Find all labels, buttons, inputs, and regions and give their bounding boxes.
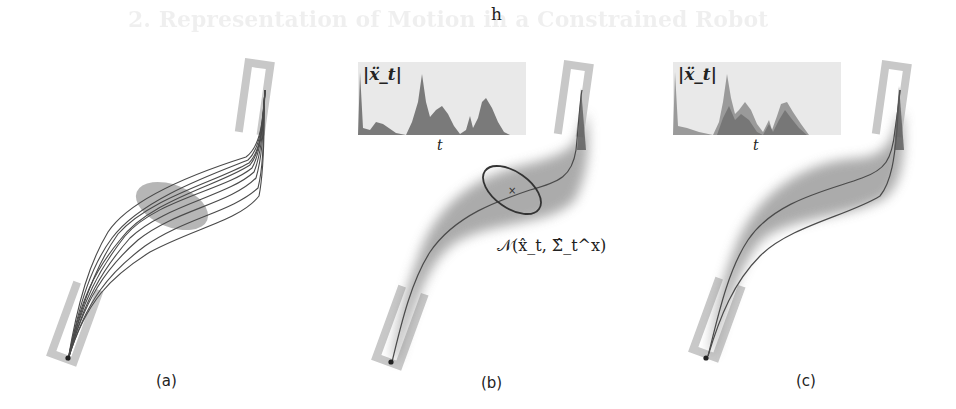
panel-label-a: (a)	[156, 372, 177, 390]
panel-b: ×	[358, 60, 594, 371]
start-point-icon	[703, 355, 708, 360]
mean-marker-icon: ×	[508, 185, 516, 196]
panel-label-b: (b)	[481, 374, 502, 392]
obstacle-ellipse	[129, 172, 215, 239]
start-point-icon	[65, 355, 70, 360]
inset-c-xlabel: t	[753, 137, 759, 153]
gaussian-annotation: 𝒩(x̂_t, Σ̂_t^x)	[497, 236, 606, 255]
panel-c	[673, 60, 912, 363]
goal-slot-icon	[235, 58, 275, 135]
start-point-icon	[388, 359, 393, 364]
goal-slot-icon	[554, 60, 594, 137]
inset-c-ylabel: |ẍ_t|	[678, 64, 717, 84]
panel-a	[46, 58, 275, 367]
goal-slot-icon	[872, 60, 912, 137]
panel-label-c: (c)	[796, 372, 816, 390]
inset-b-xlabel: t	[437, 137, 443, 153]
variance-tube	[710, 112, 904, 354]
figure-canvas: ×	[0, 0, 956, 409]
inset-b-ylabel: |ẍ_t|	[363, 64, 402, 84]
